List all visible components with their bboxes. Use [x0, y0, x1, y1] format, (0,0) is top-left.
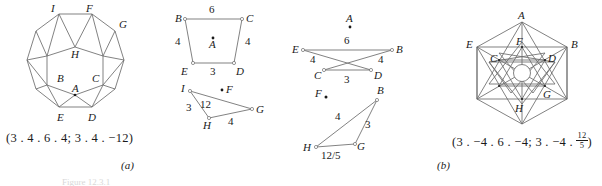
vertex-label-C: C [92, 72, 100, 84]
center-point-F [325, 96, 328, 99]
vertex-point-B [375, 98, 378, 101]
vertex-point-I [188, 89, 191, 92]
edge-label-3: 3 [186, 101, 192, 113]
diagram-trapezoid-BCDE: B C E D A 6 4 4 3 [175, 3, 254, 77]
caption-panel-b-prefix: (3 . −4 . 6 . −4; 3 . −4 . [452, 135, 576, 149]
vertex-label-B: B [57, 72, 64, 84]
center-label-A: A [208, 38, 216, 50]
vertex-point-G [250, 107, 253, 110]
vertex-label-G: G [357, 140, 365, 152]
vertex-label-H: H [202, 119, 212, 131]
caption-panel-b-fraction: 125 [576, 131, 587, 149]
vertex-label-F: F [314, 87, 322, 99]
center-label-F: F [225, 83, 233, 95]
vertex-point-C [322, 68, 325, 71]
vertex-point-C [240, 17, 243, 20]
diagram-star-polygon-vertex-figure: A E F B C D G H [465, 9, 578, 124]
vertex-label-E: E [465, 38, 473, 50]
panel-label-a: (a) [121, 159, 134, 171]
edge-label-4: 4 [228, 115, 234, 127]
caption-panel-a: (3 . 4 . 6 . 4; 3 . 4 . −12) [6, 131, 133, 146]
vertex-label-D: D [547, 52, 556, 64]
vertex-point-E [301, 48, 304, 51]
vertex-label-D: D [235, 65, 244, 77]
vertex-label-C: C [246, 12, 254, 24]
edge-label-6: 6 [209, 3, 215, 15]
figure-footer-caption: Figure 12.3.1 [62, 177, 110, 186]
vertex-point-B [390, 48, 393, 51]
figure-root: I F G H B C A E D B C E D A 6 4 4 3 [0, 0, 602, 186]
vertex-label-H: H [514, 102, 524, 114]
vertex-label-I: I [50, 2, 56, 14]
vertex-label-G: G [119, 18, 127, 30]
vertex-label-G: G [256, 103, 264, 115]
panel-label-b: (b) [437, 159, 450, 171]
vertex-label-C: C [490, 52, 498, 64]
vertex-label-B: B [571, 38, 578, 50]
vertex-point-D [369, 68, 372, 71]
vertex-point-E [191, 61, 194, 64]
vertex-label-E: E [291, 43, 299, 55]
diagram-crossed-quadrilateral-EBCD: A E B C D 6 4 4 3 [291, 12, 403, 85]
center-point-F [221, 89, 224, 92]
vertex-label-I: I [180, 82, 186, 94]
edge-label-6: 6 [344, 34, 350, 46]
edge-label-4-left: 4 [310, 53, 316, 65]
center-point-A [349, 26, 352, 29]
vertex-label-H: H [70, 48, 80, 60]
vertex-point-B [183, 17, 186, 20]
vertex-label-B: B [175, 12, 182, 24]
vertex-label-B: B [396, 43, 403, 55]
vertex-point-A [74, 94, 77, 97]
vertex-label-D: D [87, 111, 96, 123]
edge-label-4-right: 4 [378, 53, 384, 65]
vertex-point-H [314, 145, 317, 148]
edge-label-3: 3 [344, 73, 350, 85]
edge-label-4-right: 4 [245, 35, 251, 47]
vertex-label-D: D [373, 69, 382, 81]
vertex-label-B: B [377, 84, 384, 96]
diagram-triangle-IHG: I F G H 3 12 4 [180, 82, 264, 131]
edge-label-4: 4 [335, 110, 341, 122]
edge-label-12-5: 12/5 [321, 149, 341, 161]
edge-label-12: 12 [200, 98, 211, 110]
figure-vector-canvas: I F G H B C A E D B C E D A 6 4 4 3 [0, 0, 602, 186]
vertex-label-F: F [515, 35, 523, 47]
vertex-label-C: C [314, 69, 322, 81]
vertex-label-A: A [517, 9, 525, 21]
caption-panel-b-suffix: ) [588, 135, 592, 149]
caption-panel-b: (3 . −4 . 6 . −4; 3 . −4 . 125) [452, 131, 592, 150]
diagram-crossed-triangle-BHG: F B H G 4 3 12/5 [302, 84, 384, 161]
edge-label-3: 3 [210, 65, 216, 77]
vertex-label-E: E [56, 111, 64, 123]
vertex-label-H: H [302, 141, 312, 153]
fraction-denominator: 5 [576, 141, 587, 150]
diagram-rhombitrihexagonal-vertex-figure: I F G H B C A E D [27, 2, 127, 123]
edge-label-3: 3 [365, 118, 371, 130]
vertex-label-F: F [85, 2, 93, 14]
vertex-label-G: G [543, 88, 551, 100]
vertex-label-A: A [345, 12, 353, 24]
vertex-label-A: A [71, 82, 79, 94]
vertex-label-E: E [180, 65, 188, 77]
edge-label-4-left: 4 [175, 35, 181, 47]
